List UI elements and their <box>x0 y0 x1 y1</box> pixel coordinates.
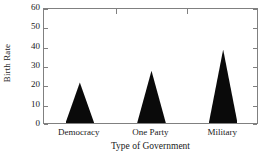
y-axis-tick-label: 20 <box>16 80 40 89</box>
x-axis-tick-mark <box>187 9 188 14</box>
y-axis-tick-mark <box>253 9 257 10</box>
x-axis-category-label: Democracy <box>43 126 115 138</box>
y-axis-tick-label: 60 <box>16 3 40 12</box>
y-axis-tick-mark <box>253 48 257 49</box>
y-axis-tick-mark <box>44 28 48 29</box>
y-axis-title: Birth Rate <box>0 0 14 126</box>
x-axis-tick-mark <box>116 9 117 14</box>
y-axis-tick-mark <box>44 67 48 68</box>
y-axis-tick-mark <box>44 9 48 10</box>
y-axis-tick-mark <box>44 86 48 87</box>
x-axis-category-label: One Party <box>115 126 187 138</box>
chart-figure: Birth Rate 0102030405060 DemocracyOne Pa… <box>0 0 267 158</box>
y-axis-tick-mark <box>44 124 48 125</box>
y-axis-tick-mark <box>253 106 257 107</box>
bar-shape <box>137 71 166 123</box>
y-axis-tick-label: 40 <box>16 42 40 51</box>
bar <box>209 50 238 123</box>
y-axis-tick-label: 0 <box>16 119 40 128</box>
y-axis-tick-mark <box>253 28 257 29</box>
y-axis-tick-label: 30 <box>16 61 40 70</box>
bar-shape <box>66 82 95 123</box>
y-axis-tick-mark <box>253 86 257 87</box>
y-axis-tick-mark <box>253 67 257 68</box>
bar-shape <box>209 50 238 123</box>
bar <box>66 82 95 123</box>
x-axis-title: Type of Government <box>43 140 258 152</box>
x-axis-category-labels: DemocracyOne PartyMilitary <box>43 126 258 140</box>
y-axis-title-text: Birth Rate <box>2 44 12 82</box>
x-axis-category-label: Military <box>186 126 258 138</box>
plot-area <box>43 8 258 124</box>
y-axis-tick-label: 10 <box>16 100 40 109</box>
y-axis-tick-label: 50 <box>16 22 40 31</box>
y-axis-tick-mark <box>44 48 48 49</box>
y-axis-tick-mark <box>44 106 48 107</box>
y-axis-tick-labels: 0102030405060 <box>14 0 40 158</box>
bar <box>137 71 166 123</box>
y-axis-tick-mark <box>253 124 257 125</box>
